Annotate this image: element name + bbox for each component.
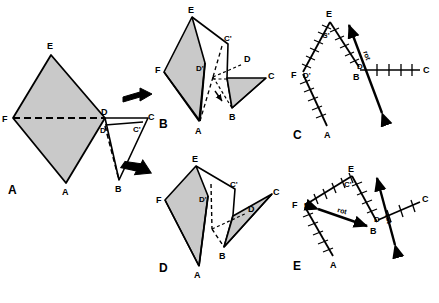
panel-e-vertex-b: B <box>370 226 377 236</box>
panel-b-dashed-cprime-center <box>213 46 222 77</box>
panel-c: rot E C' F D' D B C A C <box>291 9 430 142</box>
panel-b-vertex-dprime: D' <box>196 64 204 73</box>
panel-c-vertex-c: C <box>423 65 430 75</box>
panel-d-vertex-b: B <box>219 251 226 261</box>
panel-d-vertex-d: D <box>248 204 255 214</box>
panel-e-rot-label-direction: rot <box>337 206 348 215</box>
panel-c-ticks-lower-left <box>300 80 326 118</box>
panel-a-label: A <box>8 183 17 197</box>
panel-e-vertex-c: C <box>422 194 429 204</box>
panel-d-vertex-e: E <box>192 154 198 164</box>
panel-b-vertex-cprime: C' <box>224 34 232 43</box>
panel-c-vertex-dprime: D' <box>303 71 311 80</box>
panel-d-dashed-down-b <box>212 229 224 247</box>
panel-b: E F D' C' D C A B B <box>155 5 275 136</box>
panel-a-vertex-cprime: C' <box>133 125 141 134</box>
panel-c-label: C <box>293 128 302 142</box>
figure-container: E F D D' C C' A B A <box>0 0 439 303</box>
panel-d-dashed-e-down <box>211 184 212 229</box>
panel-a-vertex-e: E <box>47 41 53 51</box>
panel-c-edge-fdprime-e <box>303 22 330 72</box>
panel-a-vertex-d: D <box>101 107 108 117</box>
panel-b-vertex-e: E <box>188 5 194 15</box>
panel-b-fold-arrow <box>215 91 222 101</box>
panel-e-rot-label-axis: rot <box>384 213 393 224</box>
panel-e: rot rot E C' F D' D B C A E <box>292 164 429 273</box>
panel-e-label: E <box>293 259 301 273</box>
panel-a-vertex-a: A <box>62 187 69 197</box>
panel-d-vertex-f: F <box>156 195 162 205</box>
panel-e-vertex-dprime: D' <box>304 201 312 210</box>
panel-c-ticks-upper-right <box>330 28 359 63</box>
panel-d: E F D' C' D C A B D <box>156 154 280 280</box>
panel-e-vertex-cprime: C' <box>344 180 352 189</box>
panel-e-vertex-d: D <box>374 215 380 224</box>
panel-b-vertex-f: F <box>155 65 161 75</box>
panel-e-vertex-e: E <box>348 164 354 174</box>
panel-d-vertex-c: C <box>273 187 280 197</box>
panel-e-vertex-a: A <box>330 260 337 270</box>
panel-c-vertex-f: F <box>291 70 297 80</box>
diagram-svg: E F D D' C C' A B A <box>0 0 439 303</box>
panel-c-vertex-cprime: C' <box>322 31 330 40</box>
panel-b-label: B <box>159 117 168 131</box>
panel-b-vertex-d: D <box>244 54 251 64</box>
panel-a-shaded-rhombus <box>13 55 105 183</box>
panel-a-vertex-dprime: D' <box>100 126 108 135</box>
panel-a-vertex-b: B <box>115 184 122 194</box>
panel-a-vertex-c: C <box>148 112 155 122</box>
panel-e-ticks-lower-left <box>303 213 333 252</box>
panel-d-vertex-dprime: D' <box>199 195 207 204</box>
panel-c-vertex-b: B <box>353 72 360 82</box>
panel-e-rotation-axis-arrow <box>377 178 395 245</box>
panel-b-vertex-a: A <box>195 126 202 136</box>
panel-c-vertex-a: A <box>324 130 331 140</box>
arrow-a-to-b <box>123 88 152 102</box>
panel-a-vertex-f: F <box>2 114 8 124</box>
panel-d-vertex-a: A <box>194 270 201 280</box>
arrow-a-to-d <box>120 156 154 178</box>
panel-e-vertex-f: F <box>292 200 298 210</box>
panel-c-rot-label: rot <box>362 50 372 62</box>
panel-c-vertex-d: D <box>357 62 363 71</box>
panel-b-vertex-c: C <box>268 71 275 81</box>
panel-a: E F D D' C C' A B A <box>2 41 155 197</box>
panel-d-label: D <box>159 261 168 275</box>
panel-c-vertex-e: E <box>326 9 332 19</box>
panel-b-vertex-b: B <box>229 112 236 122</box>
panel-d-vertex-cprime: C' <box>230 180 238 189</box>
